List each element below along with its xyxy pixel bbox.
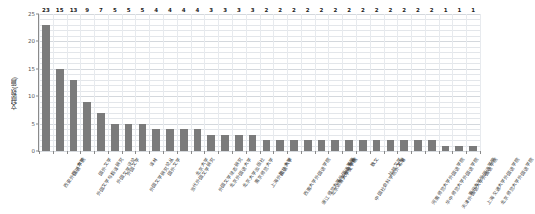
bar-slot[interactable]: 9 [80, 14, 94, 151]
bar-slot[interactable]: 2 [425, 14, 439, 151]
bar[interactable]: 2 [345, 140, 353, 151]
bar-slot[interactable]: 1 [452, 14, 466, 151]
bar-slot[interactable]: 7 [94, 14, 108, 151]
bar-value-label: 4 [154, 7, 158, 13]
y-tick-mark [36, 41, 39, 42]
bar-slot[interactable]: 3 [204, 14, 218, 151]
y-tick-mark [36, 123, 39, 124]
bar[interactable]: 4 [180, 129, 188, 151]
x-axis-label: 散文 [369, 156, 380, 168]
y-tick-mark [36, 14, 39, 15]
bar-value-label: 2 [320, 7, 324, 13]
bar-slot[interactable]: 3 [232, 14, 246, 151]
bar[interactable]: 2 [428, 140, 436, 151]
bar-value-label: 3 [223, 7, 227, 13]
bar-slot[interactable]: 5 [135, 14, 149, 151]
bar-value-label: 4 [168, 7, 172, 13]
x-tick-mark [480, 151, 481, 154]
bar[interactable]: 4 [152, 129, 160, 151]
bar[interactable]: 2 [387, 140, 395, 151]
bar-slot[interactable]: 2 [342, 14, 356, 151]
bar-slot[interactable]: 2 [370, 14, 384, 151]
bar-value-label: 2 [389, 7, 393, 13]
bar-value-label: 23 [42, 7, 50, 13]
bar[interactable]: 2 [304, 140, 312, 151]
bar-value-label: 1 [444, 7, 448, 13]
bar[interactable]: 1 [442, 146, 450, 151]
bar[interactable]: 4 [166, 129, 174, 151]
bar[interactable]: 2 [290, 140, 298, 151]
bar[interactable]: 2 [331, 140, 339, 151]
bar-value-label: 2 [306, 7, 310, 13]
bar-value-label: 2 [278, 7, 282, 13]
bar[interactable]: 1 [469, 146, 477, 151]
bar-value-label: 2 [416, 7, 420, 13]
bar[interactable]: 3 [221, 135, 229, 151]
bar-slot[interactable]: 2 [411, 14, 425, 151]
bar-slot[interactable]: 2 [328, 14, 342, 151]
bar-slot[interactable]: 2 [273, 14, 287, 151]
bar-value-label: 3 [209, 7, 213, 13]
bar-value-label: 4 [196, 7, 200, 13]
bar-value-label: 3 [237, 7, 241, 13]
bar-slot[interactable]: 2 [384, 14, 398, 151]
bar[interactable]: 5 [125, 124, 133, 151]
bar-value-label: 2 [430, 7, 434, 13]
bar-slot[interactable]: 15 [53, 14, 67, 151]
bar[interactable]: 7 [97, 113, 105, 151]
bar[interactable]: 2 [414, 140, 422, 151]
bar[interactable]: 9 [83, 102, 91, 151]
y-tick-mark [36, 96, 39, 97]
bar-slot[interactable]: 23 [39, 14, 53, 151]
bar-slot[interactable]: 2 [301, 14, 315, 151]
bar-series: 23151397555444433332222222222222111 [39, 14, 480, 151]
bar-slot[interactable]: 5 [108, 14, 122, 151]
bar-slot[interactable]: 2 [287, 14, 301, 151]
bar-slot[interactable]: 3 [246, 14, 260, 151]
bar[interactable]: 1 [455, 146, 463, 151]
bar[interactable]: 2 [373, 140, 381, 151]
x-axis-labels: 西安外国语学院四川大学外国文学与翻译研究国外文学外国文学评论外国文学外国文学研究… [38, 153, 480, 213]
bar-value-label: 2 [333, 7, 337, 13]
bar[interactable]: 13 [70, 80, 78, 151]
bar[interactable]: 3 [235, 135, 243, 151]
bar-value-label: 13 [70, 7, 78, 13]
bar-slot[interactable]: 1 [466, 14, 480, 151]
bar-slot[interactable]: 2 [260, 14, 274, 151]
bar[interactable]: 2 [318, 140, 326, 151]
bar-slot[interactable]: 2 [397, 14, 411, 151]
bar[interactable]: 5 [111, 124, 119, 151]
bar-value-label: 2 [347, 7, 351, 13]
bar-slot[interactable]: 2 [315, 14, 329, 151]
bar-value-label: 5 [140, 7, 144, 13]
bar-slot[interactable]: 4 [149, 14, 163, 151]
x-axis-label: 译林 [148, 156, 159, 168]
y-tick-mark [36, 68, 39, 69]
bar-slot[interactable]: 3 [218, 14, 232, 151]
bar-slot[interactable]: 4 [191, 14, 205, 151]
bar-value-label: 9 [85, 7, 89, 13]
bar[interactable]: 2 [400, 140, 408, 151]
bar[interactable]: 23 [42, 25, 50, 151]
bar-slot[interactable]: 2 [356, 14, 370, 151]
bar-value-label: 1 [457, 7, 461, 13]
bar-slot[interactable]: 4 [177, 14, 191, 151]
bar[interactable]: 2 [276, 140, 284, 151]
bar-slot[interactable]: 13 [67, 14, 81, 151]
bar-value-label: 1 [471, 7, 475, 13]
bar[interactable]: 3 [249, 135, 257, 151]
bar[interactable]: 4 [194, 129, 202, 151]
bar[interactable]: 3 [207, 135, 215, 151]
bar-slot[interactable]: 1 [439, 14, 453, 151]
bar-slot[interactable]: 4 [163, 14, 177, 151]
bar[interactable]: 2 [263, 140, 271, 151]
y-axis-title: 文献数(篇) [8, 38, 22, 148]
bar-value-label: 5 [113, 7, 117, 13]
bar[interactable]: 2 [359, 140, 367, 151]
bar[interactable]: 5 [139, 124, 147, 151]
bar-value-label: 2 [361, 7, 365, 13]
bar[interactable]: 15 [56, 69, 64, 151]
bar-slot[interactable]: 5 [122, 14, 136, 151]
bar-value-label: 15 [56, 7, 64, 13]
